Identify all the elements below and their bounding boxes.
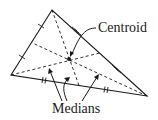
centroid-label: Centroid: [98, 21, 147, 35]
median-from-left: [11, 53, 100, 75]
medians-label: Medians: [52, 102, 100, 116]
centroid-arrow: [70, 28, 96, 57]
centroid-dot: [67, 57, 71, 61]
